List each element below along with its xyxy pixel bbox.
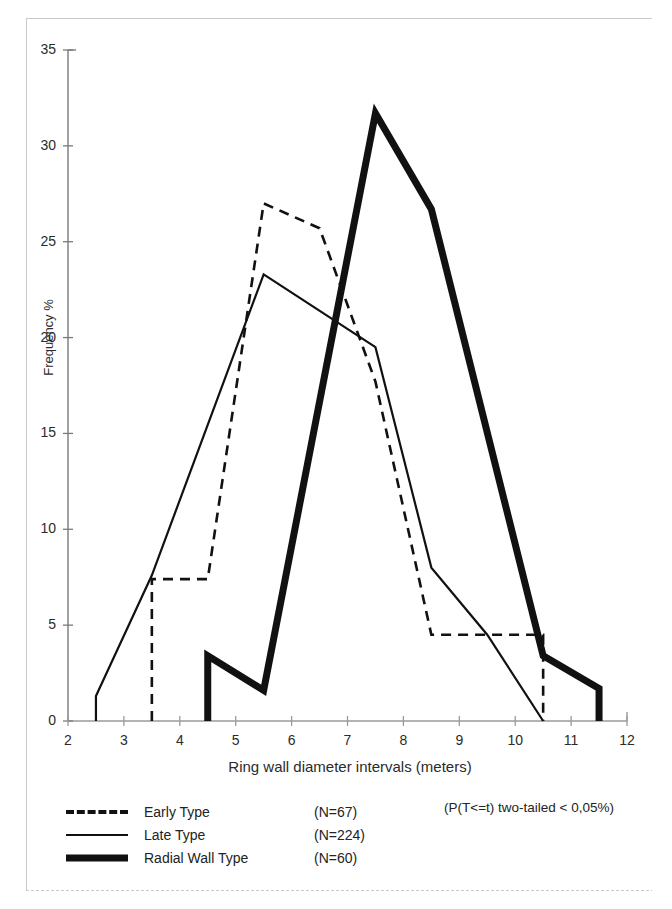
legend-rows: Early Type(N=67)Late Type(N=224)Radial W… <box>38 800 638 869</box>
legend-sample-count: (N=60) <box>314 850 424 866</box>
x-tick-label: 7 <box>328 732 368 748</box>
x-tick-label: 11 <box>551 732 591 748</box>
legend-sample-count: (N=67) <box>314 804 424 820</box>
series-line-early-type <box>152 203 543 721</box>
x-tick-label: 2 <box>48 732 88 748</box>
legend-label: Early Type <box>144 804 314 820</box>
y-tick-label: 30 <box>14 137 56 153</box>
series-line-late-type <box>96 274 543 721</box>
y-tick-label: 35 <box>14 41 56 57</box>
legend-item[interactable]: Early Type(N=67) <box>38 800 638 823</box>
legend-line-sample-icon <box>66 851 128 865</box>
legend-sample-count: (N=224) <box>314 827 424 843</box>
legend-item[interactable]: Radial Wall Type(N=60) <box>38 846 638 869</box>
y-axis-title: Frequency % <box>41 268 56 408</box>
y-tick-label: 5 <box>14 616 56 632</box>
y-tick-label: 25 <box>14 233 56 249</box>
x-tick-label: 3 <box>104 732 144 748</box>
legend-line-sample-icon <box>66 828 128 842</box>
y-tick-label: 15 <box>14 424 56 440</box>
x-tick-label: 12 <box>607 732 647 748</box>
x-tick-label: 5 <box>216 732 256 748</box>
legend-line-sample-icon <box>66 805 128 819</box>
series-lines <box>96 113 599 721</box>
x-tick-label: 6 <box>272 732 312 748</box>
x-tick-label: 4 <box>160 732 200 748</box>
legend-label: Radial Wall Type <box>144 850 314 866</box>
x-tick-label: 9 <box>439 732 479 748</box>
axis-lines <box>63 50 627 726</box>
y-tick-label: 10 <box>14 520 56 536</box>
x-tick-label: 8 <box>383 732 423 748</box>
y-tick-label: 0 <box>14 712 56 728</box>
figure-container: 35302520151050 23456789101112 Ring wall … <box>0 0 672 909</box>
legend-item[interactable]: Late Type(N=224) <box>38 823 638 846</box>
x-axis-title: Ring wall diameter intervals (meters) <box>140 758 560 775</box>
legend-label: Late Type <box>144 827 314 843</box>
chart-legend: (P(T<=t) two-tailed < 0,05%) Early Type(… <box>38 800 638 872</box>
x-tick-label: 10 <box>495 732 535 748</box>
